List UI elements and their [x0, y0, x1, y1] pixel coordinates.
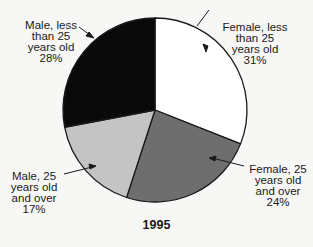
label-male-over-25: Male, 25 years old and over 17%	[4, 171, 64, 215]
chart-title: 1995	[0, 218, 313, 232]
label-male-under-25: Male, less than 25 years old 28%	[8, 20, 94, 64]
label-female-under-25: Female, less than 25 years old 31%	[205, 22, 305, 66]
label-female-over-25: Female, 25 years old and over 24%	[240, 164, 313, 208]
